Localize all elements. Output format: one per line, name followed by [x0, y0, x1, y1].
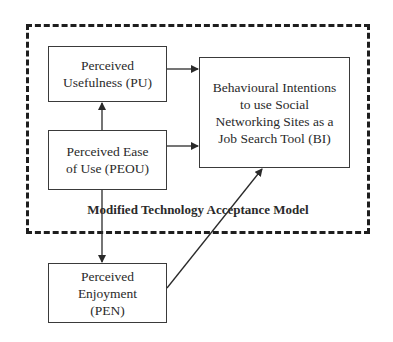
node-behavioural-intentions: Behavioural Intentions to use Social Net…: [199, 57, 350, 168]
node-label: Perceived Usefulness (PU): [63, 57, 152, 91]
node-label: Perceived Ease of Use (PEOU): [66, 143, 149, 177]
node-perceived-usefulness: Perceived Usefulness (PU): [48, 46, 167, 102]
model-frame-label: Modified Technology Acceptance Model: [26, 202, 370, 218]
node-label: Behavioural Intentions to use Social Net…: [213, 79, 336, 147]
node-label: Perceived Enjoyment (PEN): [78, 268, 137, 319]
node-perceived-ease-of-use: Perceived Ease of Use (PEOU): [48, 130, 167, 190]
node-perceived-enjoyment: Perceived Enjoyment (PEN): [48, 263, 167, 323]
